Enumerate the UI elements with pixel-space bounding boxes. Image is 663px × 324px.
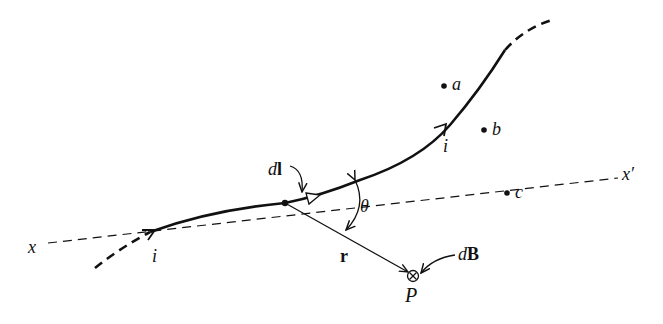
point-a-dot xyxy=(441,83,447,89)
wire-lower-dashed xyxy=(95,232,150,268)
dl-vector-arrowhead-icon xyxy=(306,193,320,204)
db-pointer-arrow xyxy=(421,255,455,273)
wire-upper-dashed xyxy=(505,20,552,50)
current-label-lower: i xyxy=(152,246,157,266)
point-a-label: a xyxy=(452,74,461,94)
r-label: r xyxy=(340,246,348,266)
axis-end-label: x′ xyxy=(621,164,635,184)
point-c-dot xyxy=(504,190,510,196)
point-b-label: b xyxy=(492,119,501,139)
theta-label: θ xyxy=(360,196,369,216)
biot-savart-diagram: x x′ i i dl r θ P dB a b c xyxy=(0,0,663,324)
axis-dashed-line xyxy=(48,178,618,243)
current-label-upper: i xyxy=(443,136,448,156)
axis-start-label: x xyxy=(27,237,36,257)
point-b-dot xyxy=(481,127,487,133)
theta-arc xyxy=(346,180,360,230)
point-c-label: c xyxy=(515,182,523,202)
dl-pointer-arrow xyxy=(290,166,302,192)
dl-label: dl xyxy=(268,159,282,179)
field-into-page-icon xyxy=(408,271,419,282)
db-label: dB xyxy=(458,244,479,264)
point-p-label: P xyxy=(404,284,417,306)
